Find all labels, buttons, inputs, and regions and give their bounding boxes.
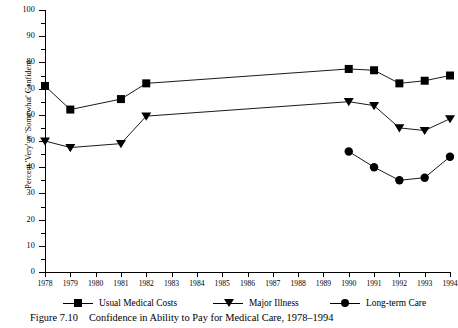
square-marker-icon (345, 65, 353, 73)
series-circle (345, 147, 455, 184)
circle-marker-icon (420, 173, 428, 181)
x-tick (450, 272, 451, 277)
y-tick-minor (41, 49, 46, 50)
y-tick-major (39, 246, 46, 247)
series-triangle (40, 98, 455, 152)
y-tick-major (39, 141, 46, 142)
y-tick-minor (41, 207, 46, 208)
legend-label: Usual Medical Costs (99, 298, 177, 308)
x-tick (273, 272, 274, 277)
legend-item-triangle[interactable]: Major Illness (213, 295, 299, 311)
triangle-marker-icon (65, 144, 75, 152)
y-tick-label: 10 (9, 242, 35, 250)
x-tick (70, 272, 71, 277)
x-tick (248, 272, 249, 277)
legend-line (63, 303, 93, 304)
y-tick-label: 0 (9, 268, 35, 276)
x-tick (323, 272, 324, 277)
triangle-marker-icon (369, 102, 379, 110)
x-tick (146, 272, 147, 277)
y-tick-major (39, 115, 46, 116)
y-tick-major (39, 167, 46, 168)
y-tick-major (39, 193, 46, 194)
legend-line (330, 303, 360, 304)
circle-marker-icon (446, 153, 454, 161)
x-tick (45, 272, 46, 277)
y-tick-minor (41, 23, 46, 24)
figure-number: Figure 7.10 (30, 312, 78, 323)
y-tick-label: 80 (9, 58, 35, 66)
legend-line (213, 303, 243, 304)
x-tick (425, 272, 426, 277)
series-line (349, 151, 450, 180)
y-tick-label: 90 (9, 32, 35, 40)
square-marker-icon (117, 95, 125, 103)
x-tick (172, 272, 173, 277)
square-marker-icon (395, 79, 403, 87)
circle-marker-icon (370, 163, 378, 171)
figure-caption: Figure 7.10Confidence in Ability to Pay … (30, 312, 450, 323)
square-marker-icon (142, 79, 150, 87)
square-marker-icon (370, 66, 378, 74)
y-tick-label: 20 (9, 216, 35, 224)
series-line (45, 102, 450, 148)
y-tick-major (39, 89, 46, 90)
legend-item-square[interactable]: Usual Medical Costs (63, 295, 177, 311)
x-tick-label: 1994 (430, 279, 458, 288)
y-tick-minor (41, 233, 46, 234)
series-square (41, 65, 454, 114)
triangle-marker-icon (141, 113, 151, 121)
y-tick-minor (41, 154, 46, 155)
x-tick (349, 272, 350, 277)
y-tick-minor (41, 76, 46, 77)
series-line (45, 69, 450, 110)
y-tick-minor (41, 180, 46, 181)
figure-caption-text: Confidence in Ability to Pay for Medical… (89, 312, 333, 323)
legend-label: Long-term Care (366, 298, 426, 308)
square-marker-icon (421, 77, 429, 85)
circle-marker-icon (395, 176, 403, 184)
circle-marker-icon (341, 299, 349, 307)
triangle-marker-icon (224, 299, 234, 307)
y-tick-minor (41, 128, 46, 129)
square-marker-icon (74, 299, 82, 307)
x-tick (96, 272, 97, 277)
legend-item-circle[interactable]: Long-term Care (330, 295, 426, 311)
square-marker-icon (446, 72, 454, 80)
triangle-marker-icon (394, 124, 404, 132)
x-tick (121, 272, 122, 277)
figure-container: Percent 'Very' or 'Somewhat' Confident 0… (0, 0, 458, 328)
y-tick-minor (41, 259, 46, 260)
y-tick-label: 70 (9, 85, 35, 93)
y-tick-major (39, 10, 46, 11)
x-tick (374, 272, 375, 277)
y-tick-label: 60 (9, 111, 35, 119)
circle-marker-icon (345, 147, 353, 155)
y-tick-label: 50 (9, 137, 35, 145)
chart-legend: Usual Medical CostsMajor IllnessLong-ter… (45, 295, 445, 311)
square-marker-icon (66, 106, 74, 114)
y-tick-label: 100 (9, 6, 35, 14)
y-tick-minor (41, 102, 46, 103)
triangle-marker-icon (420, 127, 430, 135)
y-tick-major (39, 220, 46, 221)
triangle-marker-icon (344, 98, 354, 106)
triangle-marker-icon (116, 140, 126, 148)
y-tick-major (39, 62, 46, 63)
legend-label: Major Illness (249, 298, 299, 308)
x-tick (298, 272, 299, 277)
x-tick (222, 272, 223, 277)
y-tick-major (39, 36, 46, 37)
y-tick-label: 30 (9, 189, 35, 197)
x-tick (197, 272, 198, 277)
y-tick-label: 40 (9, 163, 35, 171)
x-tick (399, 272, 400, 277)
triangle-marker-icon (445, 115, 455, 123)
